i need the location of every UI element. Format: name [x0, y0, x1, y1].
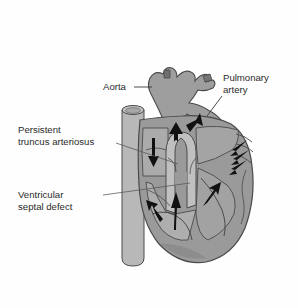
aorta-branch-stub-2 [203, 74, 212, 82]
vena-cava-lumen [126, 108, 141, 114]
label-pulmonary-artery-line2: artery [223, 84, 248, 95]
heart-diagram-svg: Aorta Pulmonary artery Persistent truncu… [0, 0, 299, 308]
label-vsd-line2: septal defect [18, 201, 73, 212]
heart-anatomy-figure: Aorta Pulmonary artery Persistent truncu… [0, 0, 299, 308]
aorta-branch-stub-1 [164, 70, 170, 78]
label-vsd-line1: Ventricular [18, 189, 64, 200]
label-aorta: Aorta [103, 81, 127, 92]
label-ventricular-septal-defect: Ventricular septal defect [18, 189, 73, 212]
label-aorta-text: Aorta [103, 81, 127, 92]
label-pulmonary-artery-line1: Pulmonary [223, 72, 269, 83]
label-truncus-line2: truncus arteriosus [18, 136, 94, 147]
label-truncus-line1: Persistent [18, 124, 61, 135]
